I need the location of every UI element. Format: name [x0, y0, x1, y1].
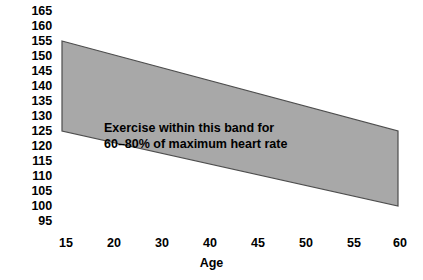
x-axis-title: Age	[0, 256, 423, 270]
x-tick-label: 50	[286, 236, 326, 250]
annotation-line-2: 60–80% of maximum heart rate	[104, 136, 354, 152]
x-tick-label: 55	[334, 236, 374, 250]
x-tick-label: 30	[142, 236, 182, 250]
heart-rate-zone-chart: 165 160 155 150 145 140 135 130 125 120 …	[0, 0, 423, 280]
x-tick-label: 20	[94, 236, 134, 250]
x-tick-label: 40	[190, 236, 230, 250]
x-tick-label: 45	[238, 236, 278, 250]
x-tick-label: 15	[46, 236, 86, 250]
annotation-line-1: Exercise within this band for	[104, 120, 354, 136]
x-axis: 15 20 30 40 45 50 55 60	[0, 236, 423, 254]
band-annotation: Exercise within this band for 60–80% of …	[104, 120, 354, 152]
x-tick-label: 60	[380, 236, 420, 250]
